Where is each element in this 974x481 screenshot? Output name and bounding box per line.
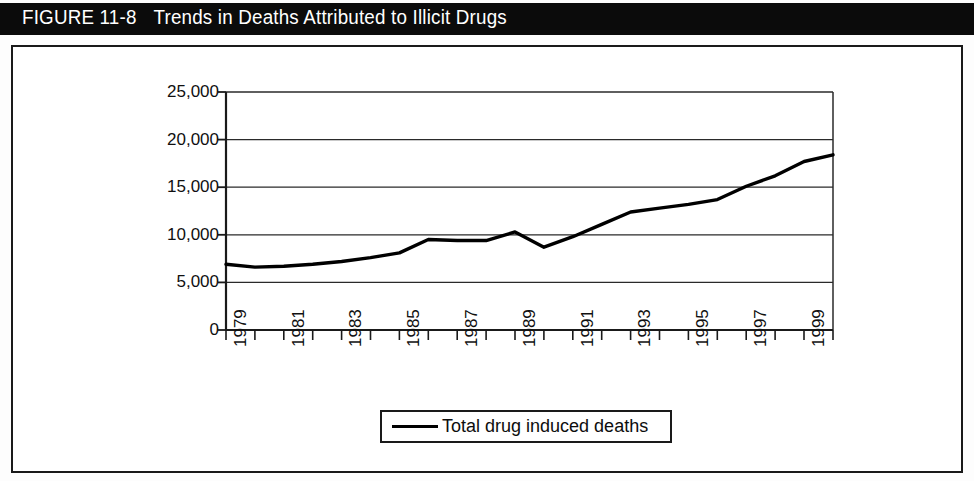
figure-container: FIGURE 11-8Trends in Deaths Attributed t… (0, 0, 974, 481)
x-tick-label: 1979 (232, 309, 249, 347)
x-tick-label: 1991 (579, 309, 596, 347)
x-tick-label: 1987 (463, 309, 480, 347)
legend-entry-label: Total drug induced deaths (442, 416, 648, 437)
x-tick-label: 1999 (810, 309, 827, 347)
x-tick-label: 1997 (752, 309, 769, 347)
page-title: Trends in Deaths Attributed to Illicit D… (153, 6, 506, 28)
x-tick-label: 1981 (290, 309, 307, 347)
x-tick-label: 1983 (347, 309, 364, 347)
figure-number-label: FIGURE 11-8 (22, 6, 137, 28)
chart-legend: Total drug induced deaths (380, 410, 672, 443)
x-tick-label: 1995 (694, 309, 711, 347)
legend-line-swatch-icon (392, 425, 438, 428)
x-tick-label: 1989 (521, 309, 538, 347)
figure-title-inner: FIGURE 11-8Trends in Deaths Attributed t… (22, 6, 507, 29)
figure-body-frame: 25,000 20,000 15,000 10,000 5,000 0 1979… (11, 45, 963, 473)
x-tick-label: 1993 (636, 309, 653, 347)
figure-title-bar: FIGURE 11-8Trends in Deaths Attributed t… (0, 3, 974, 35)
x-tick-label: 1985 (405, 309, 422, 347)
